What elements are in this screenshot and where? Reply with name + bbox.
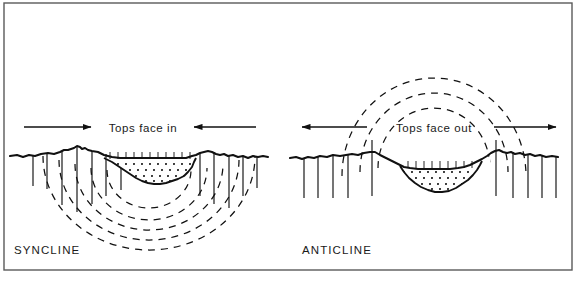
anticline-title: ANTICLINE [302,244,372,256]
figure-border [4,3,572,270]
anticline-arc-1 [378,108,490,168]
syncline-valley-fill [104,158,196,184]
syncline-ground-surface [10,146,268,158]
cross-section-canvas: Tops face in SYNCLINE [0,0,577,288]
panel-syncline: Tops face in SYNCLINE [10,122,268,256]
syncline-valley-fill-body [104,158,196,184]
tops-face-out-label: Tops face out [396,122,472,134]
geology-figure: Tops face in SYNCLINE [0,0,577,288]
syncline-title: SYNCLINE [14,244,80,256]
tops-face-in-label: Tops face in [109,122,178,134]
panel-anticline: Tops face out ANTICLINE [290,78,558,256]
